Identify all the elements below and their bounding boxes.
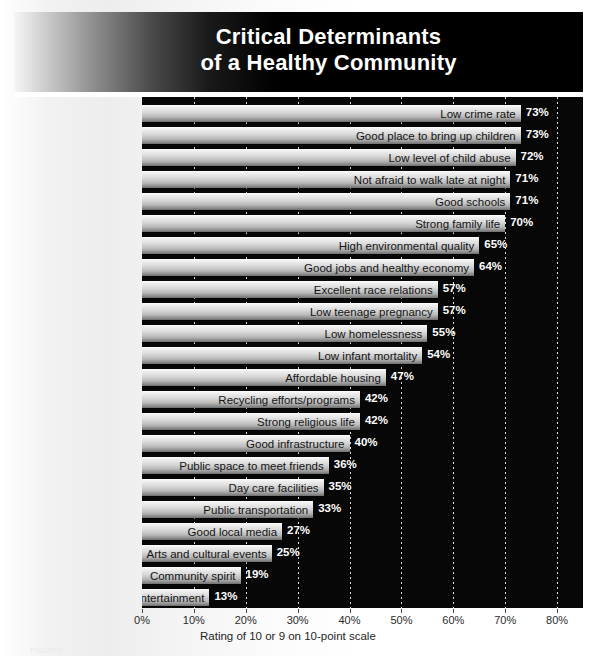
bar-row: Good schools71% xyxy=(142,193,583,210)
x-tick-label-10: 10% xyxy=(183,614,205,626)
bar-category-label: Low homelessness xyxy=(325,328,423,340)
bar-value-label: 42% xyxy=(365,392,388,404)
bar[interactable]: Low teenage pregnancy xyxy=(142,303,438,320)
x-tick-70 xyxy=(505,609,506,613)
bar-value-label: 57% xyxy=(443,282,466,294)
bar-row: Arts and cultural events25% xyxy=(142,545,583,562)
bar-value-label: 55% xyxy=(432,326,455,338)
bar-value-label: 72% xyxy=(521,150,544,162)
bar-value-label: 47% xyxy=(391,370,414,382)
bar-category-label: Good jobs and healthy economy xyxy=(304,262,469,274)
x-tick-0 xyxy=(142,609,143,613)
bar-row: Public space to meet friends36% xyxy=(142,457,583,474)
bar[interactable]: Community spirit xyxy=(142,567,241,584)
bar-row: Low infant mortality54% xyxy=(142,347,583,364)
bar-category-label: Not afraid to walk late at night xyxy=(354,174,506,186)
bar-row: Low level of child abuse72% xyxy=(142,149,583,166)
bar-row: Good jobs and healthy economy64% xyxy=(142,259,583,276)
bar[interactable]: Not afraid to walk late at night xyxy=(142,171,510,188)
x-tick-label-20: 20% xyxy=(235,614,257,626)
page-root: Critical Determinants of a Healthy Commu… xyxy=(0,0,598,656)
bar[interactable]: Good place to bring up children xyxy=(142,127,521,144)
bar-row: Day care facilities35% xyxy=(142,479,583,496)
bar-series: Low crime rate73%Good place to bring up … xyxy=(142,97,583,608)
bar-category-label: Good place to bring up children xyxy=(356,130,516,142)
x-tick-label-80: 80% xyxy=(546,614,568,626)
x-tick-50 xyxy=(401,609,402,613)
bar[interactable]: Low crime rate xyxy=(142,105,521,122)
x-tick-label-50: 50% xyxy=(390,614,412,626)
bar-category-label: Low level of child abuse xyxy=(388,152,510,164)
bar-category-label: Good infrastructure xyxy=(246,438,344,450)
bar-row: Entertainment13% xyxy=(142,589,583,606)
bar-value-label: 40% xyxy=(355,436,378,448)
bar[interactable]: Excellent race relations xyxy=(142,281,438,298)
bar-value-label: 42% xyxy=(365,414,388,426)
bar[interactable]: Strong religious life xyxy=(142,413,360,430)
bar[interactable]: Affordable housing xyxy=(142,369,386,386)
bar-value-label: 54% xyxy=(427,348,450,360)
bar-value-label: 73% xyxy=(526,128,549,140)
bar-category-label: Day care facilities xyxy=(228,482,318,494)
figure-caption: FIGURE xyxy=(30,646,63,655)
bar-category-label: Good schools xyxy=(435,196,505,208)
bar-category-label: High environmental quality xyxy=(339,240,475,252)
bar-value-label: 36% xyxy=(334,458,357,470)
bar[interactable]: Public space to meet friends xyxy=(142,457,329,474)
bar[interactable]: Low homelessness xyxy=(142,325,427,342)
x-tick-label-0: 0% xyxy=(134,614,150,626)
bar-value-label: 64% xyxy=(479,260,502,272)
bar[interactable]: Arts and cultural events xyxy=(142,545,272,562)
title-line-1: Critical Determinants xyxy=(216,24,442,49)
bar-value-label: 71% xyxy=(515,172,538,184)
bar-value-label: 27% xyxy=(287,524,310,536)
bar-row: Good infrastructure40% xyxy=(142,435,583,452)
title-line-2: of a Healthy Community xyxy=(74,50,583,76)
x-tick-label-60: 60% xyxy=(442,614,464,626)
bar[interactable]: Public transportation xyxy=(142,501,313,518)
bar-row: Good local media27% xyxy=(142,523,583,540)
chart-plot-area: Low crime rate73%Good place to bring up … xyxy=(142,97,583,608)
bar-row: Low homelessness55% xyxy=(142,325,583,342)
bar-value-label: 25% xyxy=(277,546,300,558)
x-tick-label-40: 40% xyxy=(339,614,361,626)
bar-value-label: 33% xyxy=(318,502,341,514)
bar-value-label: 70% xyxy=(510,216,533,228)
x-axis: 0%10%20%30%40%50%60%70%80% xyxy=(142,609,583,631)
x-axis-caption: Rating of 10 or 9 on 10-point scale xyxy=(142,630,583,642)
bar[interactable]: High environmental quality xyxy=(142,237,479,254)
bar[interactable]: Day care facilities xyxy=(142,479,324,496)
bar-value-label: 73% xyxy=(526,106,549,118)
bar-category-label: Community spirit xyxy=(150,570,236,582)
bar[interactable]: Low level of child abuse xyxy=(142,149,516,166)
bar-row: High environmental quality65% xyxy=(142,237,583,254)
bar-category-label: Public space to meet friends xyxy=(179,460,323,472)
bar[interactable]: Recycling efforts/programs xyxy=(142,391,360,408)
bar-category-label: Entertainment xyxy=(142,592,204,604)
x-tick-80 xyxy=(557,609,558,613)
bar[interactable]: Low infant mortality xyxy=(142,347,422,364)
bar-category-label: Low infant mortality xyxy=(318,350,417,362)
bar-category-label: Strong religious life xyxy=(257,416,355,428)
bar[interactable]: Good jobs and healthy economy xyxy=(142,259,474,276)
bar-category-label: Excellent race relations xyxy=(314,284,433,296)
title-banner: Critical Determinants of a Healthy Commu… xyxy=(14,12,583,92)
bar-row: Low crime rate73% xyxy=(142,105,583,122)
bar[interactable]: Entertainment xyxy=(142,589,209,606)
x-tick-40 xyxy=(350,609,351,613)
bar-row: Community spirit19% xyxy=(142,567,583,584)
bar[interactable]: Good infrastructure xyxy=(142,435,350,452)
bar-row: Not afraid to walk late at night71% xyxy=(142,171,583,188)
bar-category-label: Good local media xyxy=(188,526,278,538)
bar[interactable]: Good local media xyxy=(142,523,282,540)
bar-row: Affordable housing47% xyxy=(142,369,583,386)
bar-value-label: 65% xyxy=(484,238,507,250)
page-title: Critical Determinants of a Healthy Commu… xyxy=(14,24,583,76)
bar-category-label: Arts and cultural events xyxy=(147,548,267,560)
bar-row: Low teenage pregnancy57% xyxy=(142,303,583,320)
bar[interactable]: Good schools xyxy=(142,193,510,210)
bar-category-label: Recycling efforts/programs xyxy=(218,394,355,406)
x-tick-30 xyxy=(298,609,299,613)
bar[interactable]: Strong family life xyxy=(142,215,505,232)
bar-value-label: 19% xyxy=(246,568,269,580)
